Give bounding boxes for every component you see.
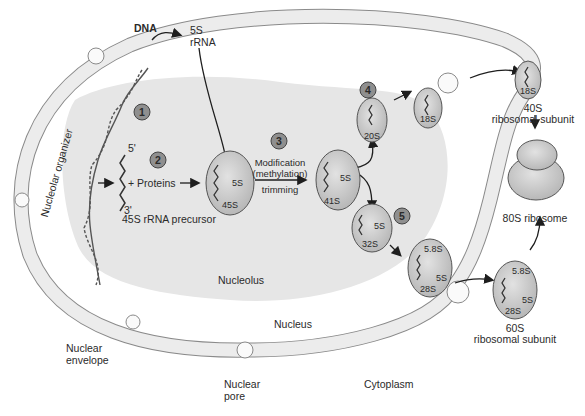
p41s-label: 41S — [324, 195, 340, 207]
rrna-5s-label-line1: 5S — [190, 24, 203, 36]
nucleus-label: Nucleus — [274, 318, 312, 330]
p41s-inner-label: 5S — [340, 172, 351, 184]
step-1-badge: 1 — [136, 106, 148, 118]
trimming-label: trimming — [250, 184, 310, 196]
p18s-nucleus-label: 18S — [420, 113, 436, 125]
step-4-badge: 4 — [362, 84, 374, 96]
ribosome-80s-shape — [508, 140, 564, 200]
p45s-label: 45S — [222, 199, 238, 211]
nuclear-pore-label-line1: Nuclear — [224, 378, 260, 390]
plus-proteins-label: + Proteins — [128, 177, 176, 189]
subunit-40s-label-line2: ribosomal subunit — [488, 113, 578, 125]
five-prime-label: 5' — [128, 142, 136, 154]
nuclear-envelope-label-line1: Nuclear — [66, 342, 102, 354]
ribosome-biogenesis-diagram: 1 2 3 4 5 DNA 5S rRNA Nucleolar organize… — [0, 0, 585, 416]
p28s-cytoplasm-label: 28S — [505, 305, 521, 317]
rrna-5s-label-line2: rRNA — [190, 36, 216, 48]
step-2-badge: 2 — [152, 154, 164, 166]
step-5-badge: 5 — [396, 210, 408, 222]
p28s-nucleus-58s-label: 5.8S — [424, 243, 443, 255]
nuclear-pore — [438, 73, 458, 93]
p28s-nucleus-5s-label: 5S — [436, 272, 447, 284]
nuclear-pore — [237, 342, 253, 358]
methylation-label: (methylation) — [250, 168, 310, 180]
p28s-cytoplasm-5s-label: 5S — [522, 294, 533, 306]
precursor-45s-label: 45S rRNA precursor — [122, 213, 216, 225]
nuclear-pore — [15, 193, 29, 207]
nuclear-pore — [447, 281, 469, 303]
subunit-60s-label-line2: ribosomal subunit — [470, 333, 560, 345]
p28s-nucleus-label: 28S — [420, 283, 436, 295]
nucleolus-label: Nucleolus — [218, 274, 264, 286]
step-3-badge: 3 — [273, 135, 285, 147]
nuclear-pore-label-line2: pore — [224, 390, 245, 402]
p45s-inner-label: 5S — [232, 177, 243, 189]
ribosome-80s-label: 80S ribosome — [490, 212, 580, 224]
p18s-cytoplasm-label: 18S — [520, 85, 536, 97]
cytoplasm-label: Cytoplasm — [364, 378, 414, 390]
nuclear-pore — [88, 48, 104, 64]
dna-label: DNA — [134, 22, 157, 34]
p32s-inner-label: 5S — [374, 220, 385, 232]
nuclear-envelope-label-line2: envelope — [66, 354, 109, 366]
p32s-label: 32S — [362, 238, 378, 250]
p20s-label: 20S — [364, 130, 380, 142]
p28s-cytoplasm-58s-label: 5.8S — [512, 265, 531, 277]
nuclear-pore — [126, 315, 140, 329]
